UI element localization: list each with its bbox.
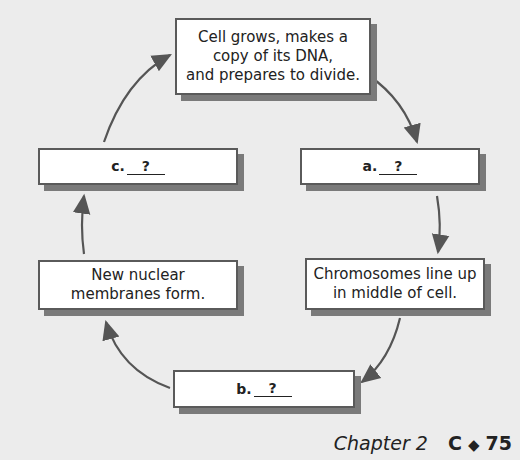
section-letter: C — [448, 432, 462, 454]
arrow-chromosomes-to-b — [362, 318, 400, 382]
page-number: 75 — [486, 432, 512, 454]
step-label: c. — [111, 157, 125, 176]
step-text-line: New nuclear — [71, 266, 205, 285]
arrow-membranes-to-c — [82, 196, 84, 254]
step-new-membranes: New nuclear membranes form. — [38, 260, 238, 310]
step-text-line: in middle of cell. — [313, 284, 476, 303]
answer-blank: ? — [254, 381, 292, 397]
step-text-line: membranes form. — [71, 285, 205, 304]
step-label: b. — [236, 380, 251, 399]
step-a-blank: a. ? — [300, 148, 480, 185]
step-chromosomes-line-up: Chromosomes line up in middle of cell. — [305, 258, 485, 310]
arrow-a-to-chromosomes — [437, 196, 440, 252]
chapter-label: Chapter 2 — [334, 432, 428, 454]
arrow-b-to-membranes — [106, 322, 170, 388]
step-label: a. — [363, 157, 378, 176]
step-cell-grows: Cell grows, makes a copy of its DNA, and… — [175, 18, 371, 95]
arrow-top-to-a — [368, 75, 417, 142]
page-footer: Chapter 2 C ◆ 75 — [334, 432, 512, 454]
answer-blank: ? — [379, 159, 417, 175]
step-text-line: Chromosomes line up — [313, 265, 476, 284]
step-text-line: and prepares to divide. — [186, 66, 360, 85]
step-text-line: Cell grows, makes a — [186, 28, 360, 47]
step-c-blank: c. ? — [38, 148, 238, 185]
step-b-blank: b. ? — [173, 370, 355, 408]
arrow-c-to-top — [104, 55, 170, 142]
step-text-line: copy of its DNA, — [186, 47, 360, 66]
diamond-icon: ◆ — [468, 436, 480, 454]
answer-blank: ? — [127, 159, 165, 175]
